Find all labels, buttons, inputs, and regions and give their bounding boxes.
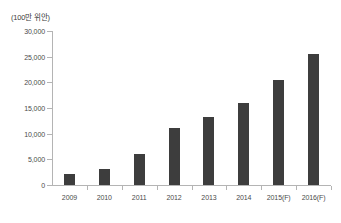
y-axis-tick-label: 0 [41,182,45,189]
x-axis-tick-label: 2010 [97,194,112,201]
x-axis-tick-label: 2011 [132,194,147,201]
bar [203,117,214,185]
y-axis-unit-label: (100만 위안) [11,11,50,22]
y-axis-tick-label: 15,000 [24,105,45,112]
x-axis-tick-label: 2012 [166,194,181,201]
x-axis-tick [87,186,88,190]
y-axis-tick-label: 5,000 [28,156,45,163]
x-axis-tick-label: 2014 [236,194,251,201]
bar [134,154,145,185]
y-axis-tick-label: 30,000 [24,28,45,35]
x-axis-tick [331,186,332,190]
plot-area [52,31,331,185]
bar [99,169,110,185]
x-axis-tick [122,186,123,190]
bar [308,54,319,185]
x-axis-tick-label: 2013 [201,194,216,201]
x-axis-tick [296,186,297,190]
x-axis-tick [226,186,227,190]
y-axis-tick-label: 10,000 [24,130,45,137]
x-axis-tick [157,186,158,190]
y-axis-tick-label: 20,000 [24,79,45,86]
y-axis-tick-label: 25,000 [24,53,45,60]
x-axis-tick [261,186,262,190]
bar [169,128,180,185]
bar [273,80,284,185]
x-axis-tick-label: 2015(F) [267,194,291,201]
bar-chart: (100만 위안) 05,00010,00015,00020,00025,000… [0,0,341,223]
x-axis-tick [192,186,193,190]
bar [64,174,75,185]
x-axis-tick-label: 2016(F) [302,194,326,201]
bar [238,103,249,185]
x-axis-tick-label: 2009 [62,194,77,201]
y-axis-tick [47,185,53,186]
